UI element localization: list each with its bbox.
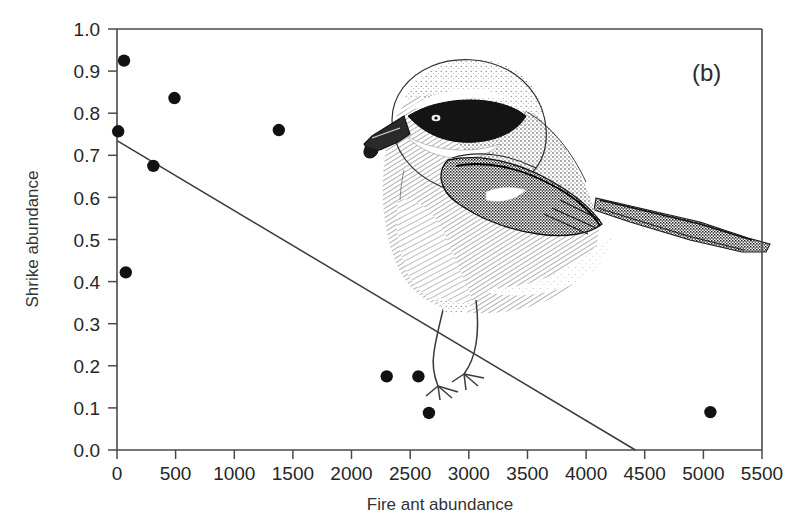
figure-panel-b: (b) 0.0 0.1 0.2 0.3 [0, 0, 802, 524]
y-axis-ticks [108, 29, 117, 450]
data-point [704, 406, 716, 418]
y-tick-label: 0.0 [74, 440, 100, 461]
x-tick-label: 3500 [506, 463, 548, 484]
x-tick-label: 500 [160, 463, 192, 484]
y-tick-label: 0.3 [74, 314, 100, 335]
x-tick-label: 2500 [389, 463, 431, 484]
x-tick-label: 5000 [682, 463, 724, 484]
y-axis-title: Shrike abundance [23, 170, 42, 307]
scatter-plot: (b) 0.0 0.1 0.2 0.3 [0, 0, 802, 524]
y-tick-label: 0.7 [74, 145, 100, 166]
data-point [381, 370, 393, 382]
data-point [112, 125, 124, 137]
data-point [168, 92, 180, 104]
x-tick-label: 1500 [272, 463, 314, 484]
data-point [412, 370, 424, 382]
x-axis-tick-labels: 0 500 1000 1500 2000 2500 3000 3500 4000… [112, 463, 783, 484]
data-point [423, 407, 435, 419]
y-tick-label: 1.0 [74, 19, 100, 40]
x-axis-ticks [117, 450, 762, 459]
loggerhead-shrike-drawing [364, 59, 770, 400]
data-point [273, 124, 285, 136]
y-axis-tick-labels: 0.0 0.1 0.2 0.3 0.4 0.5 0.6 0.7 0.8 0.9 … [74, 19, 101, 461]
y-tick-label: 0.6 [74, 188, 100, 209]
y-tick-label: 0.4 [74, 272, 101, 293]
data-point [118, 54, 130, 66]
y-tick-label: 0.8 [74, 103, 100, 124]
x-tick-label: 2000 [330, 463, 372, 484]
x-tick-label: 3000 [448, 463, 490, 484]
x-tick-label: 4500 [624, 463, 666, 484]
x-tick-label: 1000 [213, 463, 255, 484]
x-axis-title: Fire ant abundance [367, 495, 514, 514]
y-tick-label: 0.9 [74, 61, 100, 82]
x-tick-label: 5500 [741, 463, 783, 484]
y-tick-label: 0.2 [74, 356, 100, 377]
x-tick-label: 4000 [565, 463, 607, 484]
panel-label: (b) [692, 59, 721, 86]
y-tick-label: 0.5 [74, 230, 100, 251]
y-tick-label: 0.1 [74, 398, 100, 419]
data-point [120, 266, 132, 278]
data-point [147, 160, 159, 172]
x-tick-label: 0 [112, 463, 123, 484]
